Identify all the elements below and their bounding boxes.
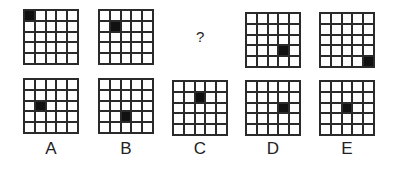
grid-cell (257, 56, 268, 67)
option-grid-d[interactable] (245, 80, 301, 136)
filled-cell (110, 21, 121, 32)
grid-cell (216, 103, 227, 114)
grid-cell (173, 92, 184, 103)
grid-cell (46, 53, 57, 64)
grid-cell (24, 111, 35, 122)
grid-cell (35, 90, 46, 101)
grid-cell (268, 45, 279, 56)
grid-cell (121, 90, 132, 101)
grid-cell (131, 122, 142, 133)
grid-cell (320, 103, 331, 114)
grid-cell (363, 45, 374, 56)
sequence-grid-2 (98, 9, 154, 65)
option-grid-e[interactable] (319, 80, 375, 136)
option-grid-b[interactable] (98, 78, 154, 134)
grid-cell (363, 124, 374, 135)
grid-cell (110, 32, 121, 43)
grid-cell (342, 56, 353, 67)
grid-cell (268, 92, 279, 103)
grid-cell (67, 21, 78, 32)
grid-cell (342, 92, 353, 103)
grid-cell (320, 45, 331, 56)
grid-cell (99, 42, 110, 53)
grid-cell (257, 113, 268, 124)
grid-cell (56, 111, 67, 122)
grid-cell (142, 101, 153, 112)
grid-cell (352, 81, 363, 92)
grid-cell (46, 101, 57, 112)
grid-cell (363, 92, 374, 103)
grid-cell (257, 92, 268, 103)
grid-cell (246, 24, 257, 35)
grid-cell (56, 122, 67, 133)
grid-cell (131, 79, 142, 90)
grid-cell (184, 92, 195, 103)
grid-cell (246, 45, 257, 56)
grid-cell (289, 13, 300, 24)
grid-cell (110, 42, 121, 53)
grid-cell (46, 42, 57, 53)
grid-cell (257, 103, 268, 114)
grid-cell (35, 42, 46, 53)
grid-cell (320, 56, 331, 67)
grid-cell (56, 32, 67, 43)
grid-cell (205, 81, 216, 92)
grid-cell (268, 56, 279, 67)
grid-cell (278, 92, 289, 103)
grid-cell (67, 111, 78, 122)
option-label-e[interactable]: E (319, 139, 375, 159)
grid-cell (205, 92, 216, 103)
grid-cell (363, 81, 374, 92)
filled-cell (195, 92, 206, 103)
grid-cell (46, 122, 57, 133)
grid-cell (331, 103, 342, 114)
grid-cell (35, 32, 46, 43)
option-grid-a[interactable] (23, 78, 79, 134)
grid-cell (110, 53, 121, 64)
grid-cell (67, 53, 78, 64)
grid-cell (142, 42, 153, 53)
option-label-b[interactable]: B (98, 139, 154, 159)
grid-cell (195, 124, 206, 135)
grid-cell (184, 113, 195, 124)
grid-cell (24, 90, 35, 101)
grid-cell (121, 53, 132, 64)
grid-cell (268, 81, 279, 92)
grid-cell (331, 45, 342, 56)
option-label-d[interactable]: D (245, 139, 301, 159)
grid-cell (131, 90, 142, 101)
grid-cell (246, 103, 257, 114)
grid-cell (131, 10, 142, 21)
grid-cell (257, 13, 268, 24)
option-grid-c[interactable] (172, 80, 228, 136)
grid-cell (331, 81, 342, 92)
grid-cell (121, 79, 132, 90)
grid-cell (205, 113, 216, 124)
grid-cell (342, 35, 353, 46)
grid-cell (289, 81, 300, 92)
grid-cell (320, 92, 331, 103)
grid-cell (24, 32, 35, 43)
grid-cell (246, 35, 257, 46)
grid-cell (121, 21, 132, 32)
grid-cell (67, 10, 78, 21)
grid-cell (99, 21, 110, 32)
filled-cell (121, 111, 132, 122)
grid-cell (278, 113, 289, 124)
grid-cell (173, 113, 184, 124)
grid-cell (278, 24, 289, 35)
grid-cell (99, 32, 110, 43)
option-label-a[interactable]: A (23, 139, 79, 159)
grid-cell (46, 21, 57, 32)
grid-cell (67, 32, 78, 43)
grid-cell (352, 56, 363, 67)
grid-cell (131, 53, 142, 64)
grid-cell (268, 13, 279, 24)
grid-cell (268, 124, 279, 135)
grid-cell (268, 35, 279, 46)
grid-cell (67, 101, 78, 112)
grid-cell (331, 24, 342, 35)
grid-cell (363, 35, 374, 46)
option-label-c[interactable]: C (172, 139, 228, 159)
grid-cell (142, 79, 153, 90)
